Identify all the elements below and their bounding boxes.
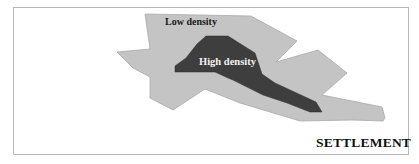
diagram-title: SETTLEMENT bbox=[316, 135, 411, 151]
high-density-label: High density bbox=[199, 56, 256, 67]
low-density-label: Low density bbox=[165, 16, 217, 27]
